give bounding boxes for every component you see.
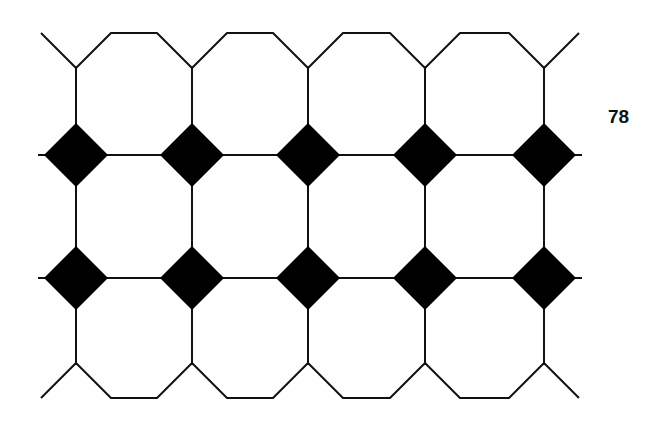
octagon-tile-pattern <box>0 0 671 431</box>
black-diamond-tile <box>512 123 576 187</box>
black-diamond-tile <box>393 123 457 187</box>
black-diamond-tile <box>44 246 108 310</box>
black-diamond-tile <box>160 246 224 310</box>
black-diamond-tile <box>160 123 224 187</box>
top-octagon-edge <box>41 33 579 68</box>
black-diamond-tile <box>44 123 108 187</box>
page-number: 78 <box>608 106 629 128</box>
black-diamond-tiles <box>44 123 576 310</box>
tile-outlines <box>38 33 582 398</box>
black-diamond-tile <box>276 246 340 310</box>
black-diamond-tile <box>512 246 576 310</box>
bottom-octagon-edge <box>41 363 579 398</box>
black-diamond-tile <box>276 123 340 187</box>
black-diamond-tile <box>393 246 457 310</box>
